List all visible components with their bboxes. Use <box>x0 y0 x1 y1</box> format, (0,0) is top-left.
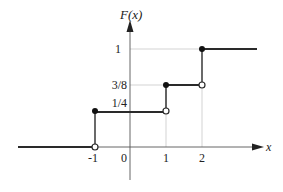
x-tick-1: 1 <box>163 151 169 165</box>
open-points <box>92 82 205 150</box>
y-axis-label: F(x) <box>119 7 142 22</box>
step-function <box>18 49 257 147</box>
y-tick-1: 1 <box>115 42 121 56</box>
x-tick-2: 2 <box>199 151 205 165</box>
closed-points <box>92 46 205 114</box>
y-tick-1-4: 1/4 <box>112 96 127 110</box>
closed-point-2-one <box>199 46 205 52</box>
y-tick-3-8: 3/8 <box>112 78 127 92</box>
x-axis-arrow-icon <box>252 144 264 151</box>
open-point-1-quarter <box>163 108 169 114</box>
closed-point-neg1-quarter <box>92 108 98 114</box>
cdf-step-chart: F(x) x 1 3/8 1/4 -1 0 1 2 <box>0 0 283 192</box>
x-tick-0: 0 <box>121 151 127 165</box>
open-point-2-three-eighths <box>199 82 205 88</box>
x-axis-label: x <box>265 140 272 154</box>
closed-point-1-three-eighths <box>163 82 169 88</box>
open-point-neg1-0 <box>92 144 98 150</box>
x-tick-neg1: -1 <box>88 151 98 165</box>
